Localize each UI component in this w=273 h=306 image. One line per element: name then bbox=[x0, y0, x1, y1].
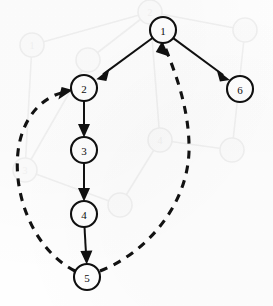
watermark-node bbox=[220, 138, 244, 162]
node-1[interactable]: 1 bbox=[150, 17, 176, 43]
watermark-edge bbox=[25, 45, 32, 170]
node-5-label: 5 bbox=[84, 272, 90, 284]
node-6[interactable]: 6 bbox=[227, 76, 253, 102]
watermark-layer: 1 2 3 4 bbox=[13, 0, 257, 217]
watermark-node-label: 2 bbox=[148, 7, 153, 18]
edge-1-to-2-arrowhead bbox=[96, 69, 109, 81]
edge-5-to-1[interactable] bbox=[100, 47, 189, 271]
node-3[interactable]: 3 bbox=[71, 137, 97, 163]
node-1-label: 1 bbox=[160, 25, 166, 37]
node-5[interactable]: 5 bbox=[74, 264, 100, 290]
node-4[interactable]: 4 bbox=[71, 201, 97, 227]
graph-diagram: 1 2 3 4 bbox=[0, 0, 273, 306]
watermark-node bbox=[233, 18, 257, 42]
node-2[interactable]: 2 bbox=[71, 75, 97, 101]
edge-1-to-6-arrowhead bbox=[217, 69, 230, 81]
edge-3-to-4-arrowhead bbox=[78, 188, 90, 202]
watermark-edge bbox=[25, 170, 120, 205]
node-4-label: 4 bbox=[81, 209, 87, 221]
watermark-node-label: 1 bbox=[30, 40, 35, 51]
edge-1-to-6[interactable] bbox=[173, 38, 223, 75]
node-6-label: 6 bbox=[237, 84, 243, 96]
node-3-label: 3 bbox=[81, 145, 87, 157]
watermark-node bbox=[76, 48, 100, 72]
edge-4-to-5-arrowhead bbox=[80, 251, 92, 265]
edge-2-to-3-arrowhead bbox=[78, 124, 90, 138]
watermark-edge bbox=[32, 12, 150, 45]
graph-canvas: 1 2 3 4 bbox=[0, 0, 273, 306]
watermark-node-label: 3 bbox=[23, 165, 28, 176]
watermark-node-label: 4 bbox=[158, 135, 163, 146]
watermark-node bbox=[108, 193, 132, 217]
node-2-label: 2 bbox=[81, 83, 87, 95]
